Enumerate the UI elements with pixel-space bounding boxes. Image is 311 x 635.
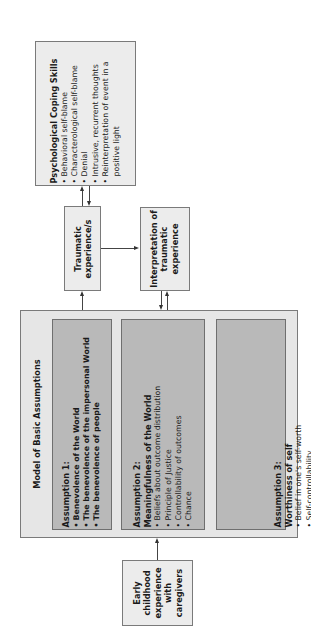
assumption-3-heading: Assumption 3: [273,322,284,527]
interpretation-box: Interpretation of traumatic experience [140,207,190,291]
assumption-item: •Self-controllability [304,322,311,527]
assumption-item: •The benevolence of the impersonal World [82,322,92,527]
assumption-1-content: Assumption 1: •Benevolence of the World … [61,322,103,527]
coping-skills-content: Psychological Coping Skills •Behavioral … [49,44,122,183]
arrow-coping-to-traumatic [89,186,90,201]
arrowhead-right-icon [134,246,139,250]
coping-skills-box: Psychological Coping Skills •Behavioral … [35,41,136,186]
early-childhood-box: Early childhood experience with caregive… [122,560,193,626]
arrowhead-up-icon [155,538,159,543]
coping-item: •Behavioral self-blame [60,44,70,183]
assumption-3-content: Assumption 3: Worthiness of self •Belief… [177,322,311,527]
coping-item: •Characterological self-blame [70,44,80,183]
assumption-3-box: Assumption 3: Worthiness of self •Belief… [216,319,286,530]
arrow-model-to-traumatic [82,296,83,310]
arrow-traumatic-to-interpretation [101,248,135,249]
arrowhead-up-icon [165,291,169,296]
assumption-item: •Principle of Justice [163,322,173,527]
assumption-2-heading: Assumption 2: [132,322,143,527]
assumption-2-subheading: Meaningfulness of the World [142,322,153,527]
assumption-item: •Beliefs about outcome distribution [153,322,163,527]
assumption-item: •Belief in one's self-worth [294,322,304,527]
traumatic-experience-box: Traumatic experience/s [64,206,101,291]
assumption-item: •The benevolence of people [93,322,103,527]
coping-item-continuation: positive light [112,44,122,183]
traumatic-experience-label: Traumatic experience/s [72,219,93,278]
assumption-1-heading: Assumption 1: [61,322,72,527]
coping-item: •Intrusive, recurrent thoughts [91,44,101,183]
coping-item: •Reinterpretation of event in a [101,44,111,183]
arrowhead-up-icon [80,186,84,191]
coping-item: •Denial [80,44,90,183]
arrow-interpretation-to-model [161,291,162,305]
coping-skills-title: Psychological Coping Skills [49,44,60,183]
interpretation-label: Interpretation of traumatic experience [149,210,180,287]
arrow-model-to-interpretation [167,296,168,310]
arrow-early-to-model [157,543,158,560]
assumption-1-box: Assumption 1: •Benevolence of the World … [52,319,112,530]
model-title: Model of Basic Assumptions [32,359,43,488]
arrowhead-up-icon [80,291,84,296]
assumption-3-subheading: Worthiness of self [283,322,294,527]
arrow-traumatic-to-coping [82,190,83,206]
assumption-item: •Benevolence of the World [72,322,82,527]
early-childhood-label: Early childhood experience with caregive… [131,568,183,619]
